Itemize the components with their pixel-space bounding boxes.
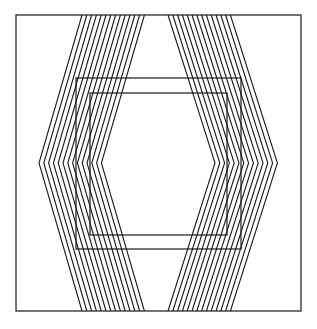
- band-line: [58, 15, 101, 311]
- right-chevron-band: [168, 15, 277, 311]
- square-1: [76, 78, 241, 249]
- band-line: [49, 15, 92, 311]
- nested-squares: [76, 78, 241, 249]
- op-art-figure: [0, 0, 317, 329]
- chevron-bands: [39, 15, 277, 311]
- band-line: [44, 15, 87, 311]
- left-chevron-band: [39, 15, 144, 311]
